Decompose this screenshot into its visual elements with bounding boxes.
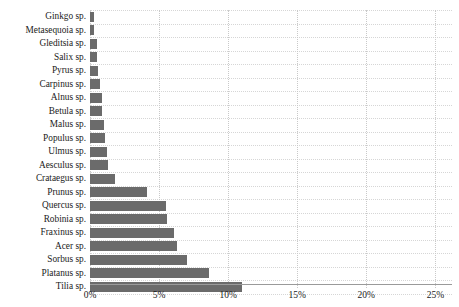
plot-area	[90, 10, 452, 284]
bar	[90, 147, 107, 157]
category-label: Aesculus sp.	[0, 159, 86, 173]
category-label: Pyrus sp.	[0, 64, 86, 78]
x-tick-label: 5%	[153, 288, 166, 302]
bar	[90, 228, 174, 238]
x-tick-label: 15%	[289, 288, 306, 302]
x-tick-label: 10%	[219, 288, 236, 302]
bar	[90, 187, 147, 197]
bar	[90, 52, 97, 62]
bar-series	[90, 10, 452, 284]
category-label: Populus sp.	[0, 132, 86, 146]
bar	[90, 79, 100, 89]
bar	[90, 201, 166, 211]
bar	[90, 25, 94, 35]
bar	[90, 133, 105, 143]
bar	[90, 160, 108, 170]
x-tick-label: 20%	[358, 288, 375, 302]
category-label: Ginkgo sp.	[0, 10, 86, 24]
category-label: Acer sp.	[0, 240, 86, 254]
category-label: Robinia sp.	[0, 213, 86, 227]
bar	[90, 12, 94, 22]
bar	[90, 241, 177, 251]
category-label: Prunus sp.	[0, 186, 86, 200]
category-label: Malus sp.	[0, 118, 86, 132]
category-label: Metasequoia sp.	[0, 24, 86, 38]
category-axis-labels: Ginkgo sp.Metasequoia sp.Gleditsia sp.Sa…	[0, 10, 86, 284]
x-tick-label: 0%	[84, 288, 97, 302]
x-axis-line	[90, 284, 452, 285]
bar	[90, 268, 209, 278]
bar	[90, 214, 167, 224]
category-label: Quercus sp.	[0, 199, 86, 213]
bar	[90, 93, 102, 103]
bar-chart: Ginkgo sp.Metasequoia sp.Gleditsia sp.Sa…	[0, 0, 459, 307]
category-label: Platanus sp.	[0, 267, 86, 281]
bar	[90, 106, 102, 116]
category-label: Tilia sp.	[0, 280, 86, 294]
category-label: Fraxinus sp.	[0, 226, 86, 240]
bar	[90, 39, 97, 49]
category-label: Betula sp.	[0, 105, 86, 119]
bar	[90, 174, 115, 184]
x-axis-tick-labels: 0%5%10%15%20%25%	[90, 288, 452, 304]
category-label: Gleditsia sp.	[0, 37, 86, 51]
x-tick-label: 25%	[427, 288, 444, 302]
category-label: Crataegus sp.	[0, 172, 86, 186]
category-label: Sorbus sp.	[0, 253, 86, 267]
bar	[90, 255, 187, 265]
category-label: Salix sp.	[0, 51, 86, 65]
bar	[90, 66, 98, 76]
category-label: Carpinus sp.	[0, 78, 86, 92]
category-label: Ulmus sp.	[0, 145, 86, 159]
category-label: Alnus sp.	[0, 91, 86, 105]
bar	[90, 120, 104, 130]
